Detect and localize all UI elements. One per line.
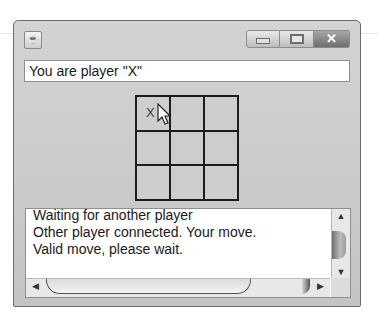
message-log-text: Waiting for another player Other player … bbox=[26, 207, 330, 277]
java-coffee-cup-icon[interactable]: ☕ bbox=[24, 31, 42, 49]
vertical-scrollbar[interactable]: ▲ ▼ bbox=[331, 209, 350, 279]
minimize-button[interactable] bbox=[246, 30, 280, 48]
board-cell-8[interactable] bbox=[170, 165, 204, 200]
horizontal-scroll-thumb[interactable] bbox=[46, 279, 251, 294]
scroll-left-arrow-icon[interactable]: ◀ bbox=[32, 281, 39, 291]
close-icon: ✕ bbox=[326, 32, 337, 46]
board-cell-6[interactable] bbox=[204, 131, 238, 166]
log-line: Valid move, please wait. bbox=[33, 241, 330, 258]
board-cell-4[interactable] bbox=[136, 131, 170, 166]
horizontal-scrollbar[interactable]: ◀ ▶ bbox=[26, 278, 330, 297]
scroll-corner bbox=[331, 278, 350, 297]
board-cell-5[interactable] bbox=[170, 131, 204, 166]
message-log[interactable]: Waiting for another player Other player … bbox=[25, 208, 351, 298]
player-status-field: You are player "X" bbox=[24, 60, 350, 82]
vertical-scroll-thumb[interactable] bbox=[332, 231, 346, 259]
scroll-down-arrow-icon[interactable]: ▼ bbox=[332, 267, 350, 277]
close-button[interactable]: ✕ bbox=[314, 30, 350, 48]
maximize-button[interactable] bbox=[280, 30, 314, 48]
window-controls: ✕ bbox=[246, 30, 350, 48]
minimize-icon bbox=[256, 38, 270, 44]
scroll-up-arrow-icon[interactable]: ▲ bbox=[332, 211, 350, 221]
title-bar[interactable]: ☕ ✕ bbox=[14, 21, 360, 57]
maximize-icon bbox=[290, 34, 304, 44]
mouse-cursor-icon bbox=[157, 103, 173, 131]
horizontal-scroll-thumb-end bbox=[302, 279, 310, 294]
board-cell-9[interactable] bbox=[204, 165, 238, 200]
board-cell-7[interactable] bbox=[136, 165, 170, 200]
tic-tac-toe-board: X bbox=[135, 95, 239, 201]
log-line: Waiting for another player bbox=[33, 207, 330, 224]
log-line: Other player connected. Your move. bbox=[33, 224, 330, 241]
scroll-right-arrow-icon[interactable]: ▶ bbox=[317, 281, 324, 291]
game-window: ☕ ✕ You are player "X" X W bbox=[13, 20, 361, 307]
board-cell-2[interactable] bbox=[170, 96, 204, 131]
board-cell-3[interactable] bbox=[204, 96, 238, 131]
